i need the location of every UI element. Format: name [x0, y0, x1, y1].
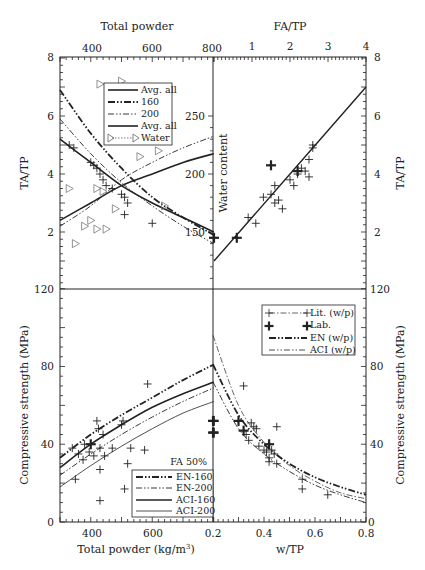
bottom-right-xlabel: w/TP — [276, 543, 304, 556]
legend-aci: ACI (w/p) — [309, 344, 356, 355]
curve-water-trend — [60, 136, 214, 226]
tick-fa-4: 4 — [363, 40, 370, 52]
tick-tatp-8: 8 — [47, 51, 54, 63]
tick-wtp-0.4: 0.4 — [256, 527, 273, 539]
legend-aci-160: ACI-160 — [175, 494, 215, 505]
plus-marker — [121, 485, 129, 493]
top-left-axis-title: Total powder — [101, 20, 175, 33]
tick-tp-800: 800 — [202, 42, 222, 54]
figure: Total powder FA/TP 400 600 800 1 2 3 4 8… — [0, 0, 425, 570]
tick-tatp-r-6: 6 — [374, 110, 381, 122]
legend-bottom-right: Lit. (w/p) Lab. EN (w/p) ACI (w/p) — [262, 305, 356, 355]
plus-marker — [96, 466, 104, 474]
tick-fa-3: 3 — [325, 40, 332, 52]
tick-water-250: 250 — [185, 110, 205, 122]
triangle-marker — [72, 240, 79, 248]
plus-marker — [124, 460, 132, 468]
tick-tatp-4: 4 — [47, 168, 54, 180]
triangle-marker — [112, 205, 119, 213]
tick-tp-600: 600 — [142, 42, 162, 54]
plus-marker — [265, 458, 273, 466]
plus-marker — [298, 485, 306, 493]
legend-en-200: EN-200 — [176, 482, 213, 493]
tick-tatp-r-4: 4 — [374, 168, 381, 180]
left-top-ylabel: TA/TP — [18, 156, 31, 190]
tick-water-200: 200 — [185, 168, 205, 180]
tick-fa-1: 1 — [249, 40, 256, 52]
bottom-left-xlabel: Total powder (kg/m3) — [77, 543, 194, 556]
legend-200: 200 — [141, 108, 159, 119]
plus-marker — [264, 439, 274, 449]
curve-en-wp — [213, 365, 366, 495]
plus-marker — [144, 380, 152, 388]
tick-mpa-r-120: 120 — [370, 283, 390, 295]
plus-marker — [108, 444, 116, 452]
plus-marker — [208, 428, 218, 438]
tick-mpa-40: 40 — [41, 438, 54, 450]
plus-marker — [273, 423, 281, 431]
plus-marker — [85, 448, 93, 456]
water-content-label: Water content — [217, 133, 230, 212]
plus-marker — [71, 475, 79, 483]
curve-aci-wp — [213, 382, 366, 503]
plus-marker — [305, 173, 313, 181]
legend-en: EN (w/p) — [310, 332, 353, 343]
tick-mpa-r-80: 80 — [370, 360, 383, 372]
plus-marker — [118, 421, 126, 429]
plus-marker — [305, 156, 313, 164]
tick-tatp-r-2: 2 — [374, 226, 381, 238]
triangle-marker — [103, 225, 110, 233]
tick-mpa-80: 80 — [41, 360, 54, 372]
tick-mpa-r-40: 40 — [370, 438, 383, 450]
plus-marker — [94, 425, 102, 433]
tick-mpa-0: 0 — [47, 516, 54, 528]
plus-marker — [252, 219, 260, 227]
legend-lit: Lit. (w/p) — [310, 307, 354, 318]
fa-note: FA 50% — [170, 456, 207, 467]
legend-lab: Lab. — [310, 319, 331, 330]
plus-marker — [240, 382, 248, 390]
legend-en-160: EN-160 — [176, 471, 213, 482]
triangle-marker — [155, 147, 162, 155]
tick-wtp-0.8: 0.8 — [358, 527, 375, 539]
legend-avg-all-2: Avg. all — [140, 120, 177, 131]
tick-wtp-0.2: 0.2 — [205, 527, 222, 539]
right-bottom-ylabel: Compressive strength (MPa) — [394, 325, 407, 485]
plus-marker — [96, 444, 104, 452]
plus-marker — [148, 219, 156, 227]
left-bottom-ylabel: Compressive strength (MPa) — [18, 325, 31, 485]
tick-wtp-0.6: 0.6 — [307, 527, 324, 539]
tick-tatp-2: 2 — [47, 226, 54, 238]
triangle-marker — [88, 216, 95, 224]
legend-top-left: Avg. all 160 200 Avg. all Water — [104, 83, 177, 145]
plus-marker — [234, 416, 244, 426]
legend-160: 160 — [141, 96, 159, 107]
triangle-marker — [66, 185, 73, 193]
triangle-marker — [94, 225, 101, 233]
plus-marker — [298, 475, 306, 483]
plus-marker — [290, 182, 298, 190]
tick-tpb-600: 600 — [143, 527, 163, 539]
tick-tatp-6: 6 — [47, 110, 54, 122]
plus-marker — [96, 497, 104, 505]
plus-marker — [141, 446, 149, 454]
triangle-marker — [137, 153, 144, 161]
tick-tp-400: 400 — [82, 42, 102, 54]
plus-marker — [232, 233, 242, 243]
legend-aci-200: ACI-200 — [175, 505, 215, 516]
legend-water: Water — [141, 132, 170, 143]
tick-tatp-r-8: 8 — [374, 51, 381, 63]
legend-avg-all: Avg. all — [140, 84, 177, 95]
plus-marker — [208, 416, 218, 426]
plus-marker — [119, 417, 127, 425]
plus-marker — [127, 444, 135, 452]
plus-marker — [255, 442, 263, 450]
plus-marker — [266, 160, 276, 170]
plus-marker — [93, 417, 101, 425]
triangle-marker — [97, 80, 104, 88]
top-right-axis-title: FA/TP — [273, 20, 307, 33]
plus-marker — [278, 205, 286, 213]
curve-avg-all-water — [60, 154, 214, 221]
right-top-ylabel: TA/TP — [394, 156, 407, 190]
plus-marker — [121, 211, 129, 219]
